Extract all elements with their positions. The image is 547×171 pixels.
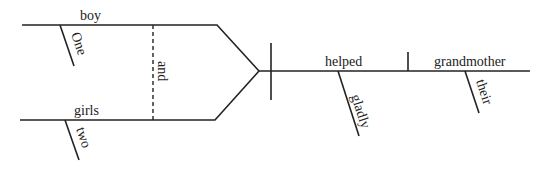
- subject-bottom-branch: girls two: [20, 71, 259, 160]
- object-modifier-word: their: [473, 77, 495, 106]
- subject-top-branch: boy One: [22, 8, 259, 71]
- subject-bottom-line: [20, 71, 259, 120]
- predicate: helped gladly: [325, 54, 373, 136]
- subject-top-modifier-word: One: [68, 30, 90, 57]
- conjunction-word: and: [155, 61, 170, 81]
- subject-bottom-modifier-word: two: [73, 125, 94, 150]
- subject-bottom-word: girls: [74, 103, 99, 118]
- subject-top-word: boy: [80, 8, 101, 23]
- sentence-diagram: boy One girls two and helped gladly gran…: [0, 0, 547, 171]
- object-word: grandmother: [434, 54, 506, 69]
- verb-word: helped: [325, 54, 362, 69]
- verb-modifier-word: gladly: [348, 92, 373, 130]
- direct-object: grandmother their: [434, 54, 506, 113]
- conjunction: and: [153, 25, 170, 120]
- subject-top-line: [22, 25, 259, 71]
